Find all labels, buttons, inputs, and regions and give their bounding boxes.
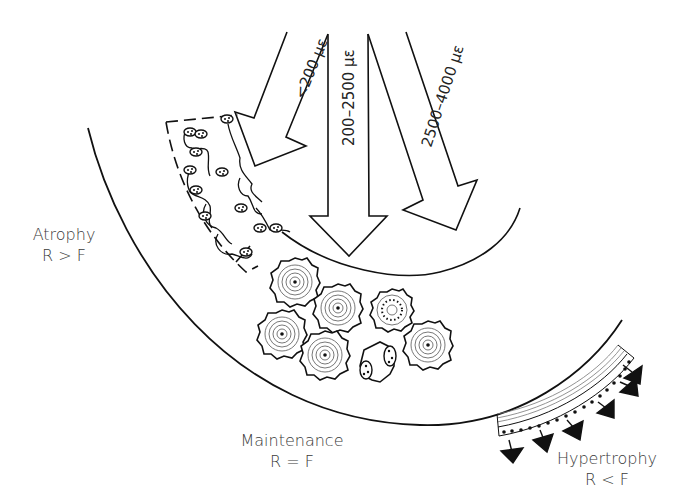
arrow-high-strain: 2500–4000 με [368, 32, 477, 230]
osteons [257, 258, 453, 382]
arrow-low-strain: <200 με [235, 32, 332, 166]
maintenance-relation: R = F [236, 451, 348, 472]
maintenance-title: Maintenance [236, 430, 348, 451]
hypertrophy-title: Hypertrophy [552, 448, 662, 469]
maintenance-label: Maintenance R = F [236, 430, 348, 472]
periosteal-bone-layer [497, 345, 634, 436]
atrophy-label: Atrophy R > F [22, 224, 106, 266]
arrow-mid-label: 200–2500 με [340, 49, 358, 146]
atrophy-relation: R > F [22, 245, 106, 266]
atrophy-title: Atrophy [22, 224, 106, 245]
hypertrophy-label: Hypertrophy R < F [552, 448, 662, 490]
arrow-mid-strain: 200–2500 με [310, 34, 387, 256]
hypertrophy-relation: R < F [552, 469, 662, 490]
